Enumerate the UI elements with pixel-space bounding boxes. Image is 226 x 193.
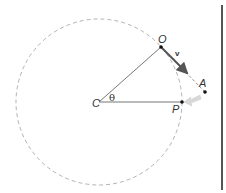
label-p: P: [172, 103, 180, 115]
velocity-arrow: [161, 47, 187, 73]
force-arrow: [184, 95, 201, 106]
point-o: [159, 45, 163, 49]
circular-motion-diagram: O A P C θ v: [0, 0, 226, 193]
point-p: [180, 100, 184, 104]
velocity-label: v: [175, 49, 180, 58]
label-c: C: [92, 97, 100, 109]
point-a: [203, 90, 207, 94]
label-o: O: [158, 33, 167, 45]
angle-theta-label: θ: [109, 92, 115, 103]
label-a: A: [198, 77, 206, 89]
